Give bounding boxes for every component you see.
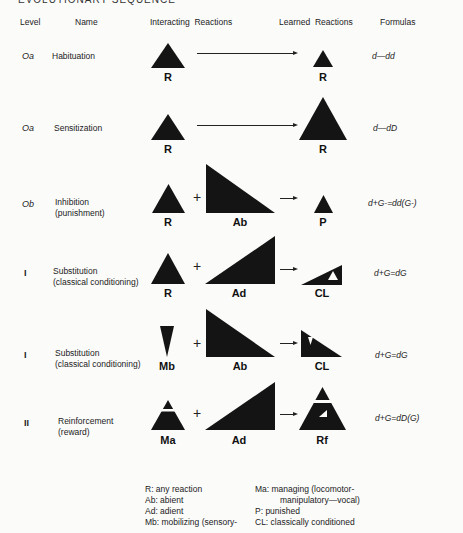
- level-label: I: [24, 350, 27, 360]
- level-label: II: [24, 418, 29, 428]
- name-line-2: (classical conditioning): [53, 277, 139, 288]
- formula: d—dd: [372, 51, 395, 61]
- name-line-2: (classical conditioning): [55, 359, 141, 370]
- reaction-name: Substitution (classical conditioning): [55, 348, 141, 370]
- triangle-icon: [152, 184, 185, 213]
- header-level: Level: [20, 17, 40, 27]
- shape-label: Mb: [147, 360, 187, 372]
- name-line-2: (reward): [58, 427, 113, 438]
- long-arrow: [197, 53, 293, 54]
- long-arrow: [197, 125, 293, 126]
- shape-label: Rf: [302, 434, 342, 446]
- shape-label: Ma: [148, 434, 188, 446]
- arrow-head-icon: [293, 267, 298, 271]
- reinforced-triangle-icon: [299, 387, 346, 430]
- triangle-icon: [151, 253, 185, 284]
- arrow-head-icon: [293, 51, 298, 55]
- descending-right-triangle-icon: [206, 309, 275, 357]
- short-arrow: [280, 269, 293, 270]
- inverted-triangle-icon: [160, 326, 174, 357]
- legend-entry-cl: CL: classically conditioned: [255, 517, 360, 528]
- cropped-title-fragment: EVOLUTIONARY SEQUENCE: [18, 0, 176, 5]
- legend-entry-ma: Ma: managing (locomotor-: [255, 484, 360, 495]
- short-arrow: [280, 414, 293, 415]
- arrow-head-icon: [293, 341, 298, 345]
- arrow-head-icon: [293, 412, 298, 416]
- triangle-icon: [151, 114, 185, 140]
- name-line-2: (punishment): [55, 208, 105, 219]
- conditioned-descending-triangle-icon: [301, 330, 342, 357]
- arrow-head-icon: [293, 196, 298, 200]
- reaction-name: Sensitization: [54, 123, 102, 134]
- legend-entry-ab: Ab: abient: [145, 495, 237, 506]
- name-line-1: Substitution: [53, 266, 139, 277]
- reaction-name: Inhibition (punishment): [55, 197, 105, 219]
- triangle-icon: [151, 43, 185, 68]
- shape-label: R: [303, 143, 343, 155]
- header-interacting-reactions: Interacting Reactions: [150, 17, 232, 27]
- level-label: I: [24, 268, 27, 278]
- shape-label: R: [148, 287, 188, 299]
- reaction-name: Habituation: [52, 51, 95, 62]
- header-learned-reactions: Learned Reactions: [279, 17, 353, 27]
- plus-operator: +: [193, 258, 201, 274]
- shape-label: Ab: [220, 216, 260, 228]
- plus-operator: +: [193, 335, 201, 351]
- shape-label: Ad: [219, 434, 259, 446]
- ascending-right-triangle-icon: [205, 382, 275, 430]
- small-triangle-icon: [314, 195, 333, 213]
- formula: d+G=dD(G): [375, 413, 419, 423]
- shape-label: R: [148, 71, 188, 83]
- shape-label: R: [303, 71, 343, 83]
- formula: d—dD: [373, 123, 397, 133]
- arrow-head-icon: [293, 123, 298, 127]
- formula: d+G=dG: [375, 350, 408, 360]
- legend-entry-ad: Ad: adient: [145, 506, 237, 517]
- shape-label: CL: [302, 287, 342, 299]
- name-line-1: Reinforcement: [58, 416, 113, 427]
- short-arrow: [280, 343, 293, 344]
- name-line-1: Inhibition: [55, 197, 105, 208]
- header-formulas: Formulas: [380, 17, 415, 27]
- descending-right-triangle-icon: [206, 164, 275, 213]
- reaction-name: Substitution (classical conditioning): [53, 266, 139, 288]
- shape-label: R: [148, 216, 188, 228]
- formula: d+G=dG: [374, 268, 407, 278]
- header-name: Name: [75, 17, 98, 27]
- legend-entry-ma-continued: manipulatory—vocal): [255, 495, 360, 506]
- small-triangle-icon: [313, 50, 333, 67]
- level-label: Oa: [22, 51, 34, 61]
- ascending-right-triangle-icon: [205, 236, 275, 284]
- conditioned-ascending-triangle-icon: [301, 265, 342, 285]
- shape-label: Ab: [220, 360, 260, 372]
- legend-entry-r: R: any reaction: [145, 484, 237, 495]
- shape-label: P: [303, 216, 343, 228]
- level-label: Ob: [22, 199, 34, 209]
- shape-label: R: [148, 143, 188, 155]
- plus-operator: +: [193, 189, 201, 205]
- name-line-1: Substitution: [55, 348, 141, 359]
- formula: d+G-=dd(G-): [368, 198, 417, 208]
- legend-right-column: Ma: managing (locomotor- manipulatory—vo…: [255, 484, 360, 528]
- legend-entry-mb: Mb: mobilizing (sensory-: [145, 517, 237, 528]
- short-arrow: [280, 198, 293, 199]
- level-label: Oa: [22, 123, 34, 133]
- split-triangle-icon: [151, 400, 185, 430]
- reaction-name: Reinforcement (reward): [58, 416, 113, 438]
- shape-label: CL: [302, 360, 342, 372]
- large-triangle-icon: [299, 97, 347, 140]
- shape-label: Ad: [219, 287, 259, 299]
- legend-left-column: R: any reaction Ab: abient Ad: adient Mb…: [145, 484, 237, 528]
- legend-entry-p: P: punished: [255, 506, 360, 517]
- plus-operator: +: [193, 405, 201, 421]
